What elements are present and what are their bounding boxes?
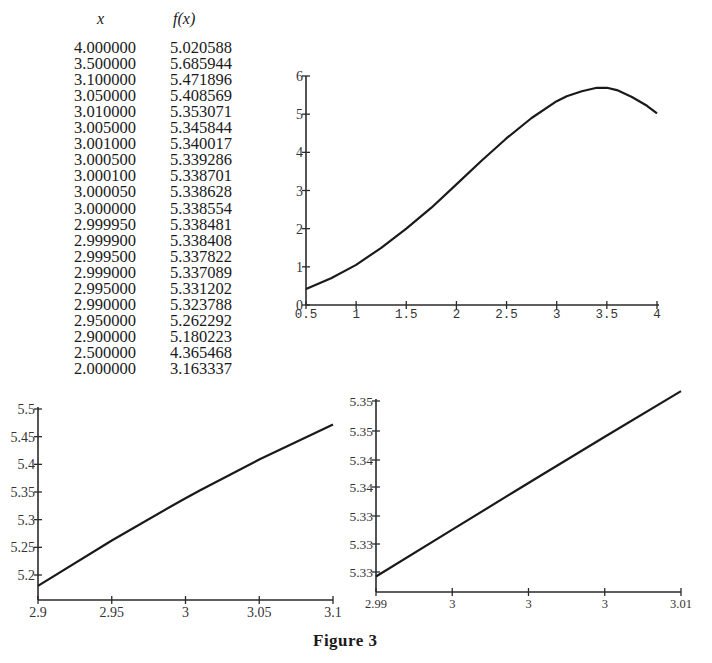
y-tick-label: 5.34	[349, 480, 373, 495]
x-tick-label: 3	[449, 597, 455, 611]
y-tick-label: 5.35	[349, 424, 373, 439]
y-tick-label: 5.33	[349, 509, 373, 524]
figure-caption: Figure 3	[313, 631, 378, 651]
y-tick-label: 5.33	[349, 565, 373, 580]
function-curve	[376, 391, 681, 576]
chart-zoom-2: 2.993333.015.335.335.335.345.345.355.35	[0, 0, 712, 663]
y-tick-label: 5.35	[349, 394, 373, 409]
y-tick-label: 5.33	[349, 537, 373, 552]
x-tick-label: 3.01	[670, 597, 692, 611]
x-tick-label: 3	[602, 597, 608, 611]
x-tick-label: 2.99	[365, 597, 387, 611]
y-tick-label: 5.34	[349, 453, 373, 468]
x-tick-label: 3	[525, 597, 531, 611]
